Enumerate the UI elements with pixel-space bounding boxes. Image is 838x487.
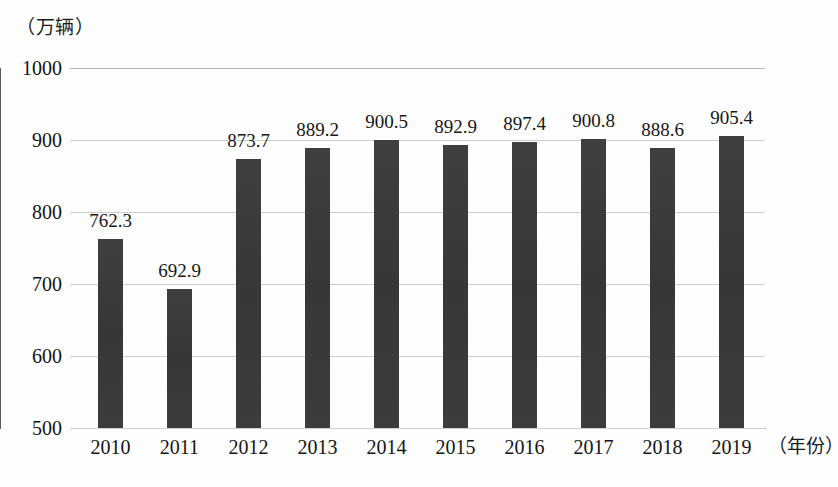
- gridline: [70, 68, 765, 69]
- y-axis-tick-label: 600: [6, 346, 62, 366]
- x-axis-tick-label: 2011: [140, 437, 220, 457]
- gridline: [70, 140, 765, 141]
- bar: [236, 159, 261, 428]
- bar-value-label: 873.7: [209, 131, 289, 150]
- x-axis-tick-label: 2018: [623, 437, 703, 457]
- bar-value-label: 692.9: [140, 261, 220, 280]
- y-axis-tick-labels: 1000900800700600500: [0, 0, 62, 487]
- bar: [581, 139, 606, 428]
- bar-value-label: 900.5: [347, 112, 427, 131]
- y-axis-tick-label: 800: [6, 202, 62, 222]
- bar-value-label: 897.4: [485, 114, 565, 133]
- gridline: [70, 428, 765, 429]
- bar-value-label: 892.9: [416, 117, 496, 136]
- bar-value-label: 762.3: [71, 211, 151, 230]
- x-axis-tick-label: 2017: [554, 437, 634, 457]
- bar: [98, 239, 123, 428]
- bar: [167, 289, 192, 428]
- bar: [443, 145, 468, 428]
- y-axis-tick-label: 1000: [6, 58, 62, 78]
- bar-chart: （万辆） 1000900800700600500 201020112012201…: [0, 0, 838, 487]
- y-axis-tick-label: 900: [6, 130, 62, 150]
- bar: [719, 136, 744, 428]
- x-axis-tick-label: 2012: [209, 437, 289, 457]
- x-axis-tick-label: 2016: [485, 437, 565, 457]
- bar: [305, 148, 330, 428]
- y-axis-tick-label: 500: [6, 418, 62, 438]
- bar-value-label: 905.4: [692, 108, 772, 127]
- x-axis-tick-label: 2015: [416, 437, 496, 457]
- bar-value-label: 888.6: [623, 120, 703, 139]
- x-axis-tick-label: 2013: [278, 437, 358, 457]
- y-axis-tick-label: 700: [6, 274, 62, 294]
- bar: [512, 142, 537, 428]
- bar-value-label: 900.8: [554, 111, 634, 130]
- x-axis-tick-label: 2019: [692, 437, 772, 457]
- bar: [650, 148, 675, 428]
- bar: [374, 140, 399, 428]
- x-axis-tick-label: 2014: [347, 437, 427, 457]
- x-axis-caption: （年份）: [768, 437, 838, 457]
- x-axis-tick-label: 2010: [71, 437, 151, 457]
- bar-value-label: 889.2: [278, 120, 358, 139]
